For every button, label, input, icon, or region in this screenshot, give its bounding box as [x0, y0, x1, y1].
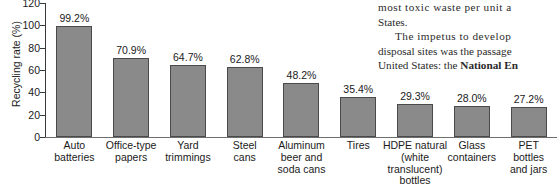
bar-value-label: 48.2%: [287, 70, 317, 81]
bar[interactable]: [283, 83, 319, 137]
bar-value-label: 70.9%: [116, 45, 146, 56]
bar-value-label: 28.0%: [457, 93, 487, 104]
y-tick-20: 20: [16, 110, 40, 121]
y-tick-mark-60: [40, 70, 45, 71]
bar-group: 62.8%: [216, 3, 273, 137]
bar-value-label: 35.4%: [343, 84, 373, 95]
plot-area: 99.2%70.9%64.7%62.8%48.2%35.4%29.3%28.0%…: [46, 3, 557, 137]
bar-value-label: 99.2%: [59, 13, 89, 24]
y-tick-100: 100: [16, 20, 40, 31]
bar-value-label: 62.8%: [230, 54, 260, 65]
y-tick-mark-100: [40, 25, 45, 26]
bar-group: 70.9%: [103, 3, 160, 137]
x-axis-category-labels: AutobatteriesOffice-typepapersYardtrimmi…: [46, 140, 557, 188]
bar-group: 35.4%: [330, 3, 387, 137]
bar-group: 29.3%: [387, 3, 444, 137]
category-label-line: and jars: [492, 164, 560, 176]
y-tick-mark-20: [40, 115, 45, 116]
bar-group: 28.0%: [443, 3, 500, 137]
y-tick-40: 40: [16, 87, 40, 98]
recycling-rate-bar-chart: Recycling rate (%) 020406080100120 99.2%…: [0, 0, 560, 188]
y-tick-mark-120: [40, 3, 45, 4]
y-tick-mark-40: [40, 92, 45, 93]
bar-group: 99.2%: [46, 3, 103, 137]
y-axis-tick-labels: 020406080100120: [16, 0, 40, 188]
bar[interactable]: [56, 26, 92, 137]
bar[interactable]: [511, 107, 547, 137]
y-tick-mark-0: [40, 137, 45, 138]
y-tick-120: 120: [16, 0, 40, 9]
x-axis-line: [45, 137, 557, 138]
bar-group: 64.7%: [160, 3, 217, 137]
category-label-line: bottles: [492, 152, 560, 164]
y-tick-mark-80: [40, 48, 45, 49]
y-tick-60: 60: [16, 65, 40, 76]
bar[interactable]: [170, 65, 206, 137]
category-label-line: beer and: [265, 152, 338, 164]
bar[interactable]: [397, 104, 433, 137]
bar[interactable]: [454, 106, 490, 137]
y-tick-80: 80: [16, 43, 40, 54]
bar[interactable]: [227, 67, 263, 137]
bar-value-label: 27.2%: [514, 94, 544, 105]
bar-value-label: 64.7%: [173, 52, 203, 63]
category-label-line: bottles: [379, 175, 452, 187]
bar-group: 48.2%: [273, 3, 330, 137]
category-label: PETbottlesand jars: [492, 140, 560, 175]
category-label-line: soda cans: [265, 164, 338, 176]
bar-value-label: 29.3%: [400, 91, 430, 102]
y-tick-0: 0: [16, 132, 40, 143]
bar[interactable]: [113, 58, 149, 137]
bar[interactable]: [340, 97, 376, 137]
bar-group: 27.2%: [500, 3, 557, 137]
